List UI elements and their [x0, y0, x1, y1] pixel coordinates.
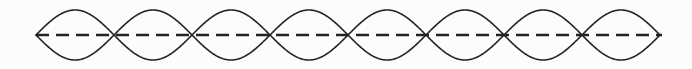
wave-canvas [0, 0, 692, 69]
standing-wave-figure [0, 0, 692, 69]
